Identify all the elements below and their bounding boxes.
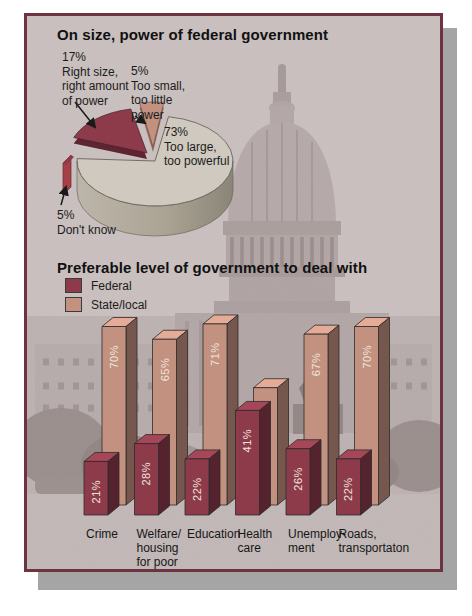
pie-chart-title: On size, power of federal government [57, 26, 328, 43]
bar-federal-0-value-label: 21% [90, 480, 102, 504]
legend-item-state-local: State/local [65, 297, 147, 312]
pie-label-too-small: 5% Too small, too little power [131, 64, 185, 122]
bar-federal-2-value-label: 22% [191, 477, 203, 501]
category-label-2: Education [187, 527, 240, 541]
bar-federal-5: 22% [337, 450, 372, 515]
category-label-1: Welfare/ housing for poor [137, 527, 181, 569]
bar-chart-title: Preferable level of government to deal w… [57, 259, 367, 276]
bar-federal-5-value-label: 22% [343, 477, 355, 501]
bar-federal-3-value-label: 41% [242, 429, 254, 453]
bar-state-local-5-value-label: 70% [361, 345, 373, 369]
bar-state-local-4-value-label: 67% [310, 353, 322, 377]
pie-label-too-large: 73% Too large, too powerful [164, 125, 229, 169]
bar-federal-2: 22% [185, 450, 220, 515]
legend-item-federal: Federal [65, 278, 147, 293]
figure-panel: 70%21%65%28%71%22%46%41%67%26%70%22% On … [24, 13, 443, 572]
bar-state-local-0-value-label: 70% [108, 345, 120, 369]
bar-state-local-2-value-label: 71% [209, 342, 221, 366]
category-label-3: Health care [238, 527, 273, 555]
category-label-5: Roads, transportaton [339, 527, 410, 555]
federal-swatch-icon [65, 278, 82, 293]
state-local-swatch-icon [65, 297, 82, 312]
bar-federal-3: 41% [236, 401, 271, 515]
category-label-4: Unemploy- ment [288, 527, 346, 555]
category-label-0: Crime [86, 527, 118, 541]
bar-state-local-1-value-label: 65% [159, 358, 171, 382]
bar-chart-legend: Federal State/local [65, 278, 147, 316]
pie-label-right-size: 17% Right size, right amount of power [62, 50, 129, 108]
legend-label-state-local: State/local [91, 298, 147, 312]
pie-label-dont-know: 5% Don't know [57, 208, 116, 237]
bar-federal-1-value-label: 28% [141, 462, 153, 486]
legend-label-federal: Federal [91, 279, 132, 293]
figure-stage: 70%21%65%28%71%22%46%41%67%26%70%22% On … [0, 0, 472, 616]
bar-federal-4-value-label: 26% [292, 467, 304, 491]
bar-federal-1: 28% [135, 435, 170, 515]
bar-federal-4: 26% [286, 440, 321, 515]
bar-federal-0: 21% [84, 452, 119, 515]
